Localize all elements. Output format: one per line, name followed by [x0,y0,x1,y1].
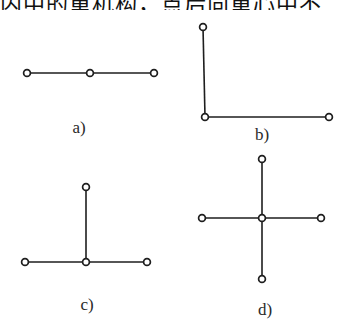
figure-c-t-shaped-graph: c) [22,184,151,314]
figure-label: b) [255,125,269,144]
edge [203,27,205,117]
node-circle-icon [22,259,29,266]
node-circle-icon [326,114,333,121]
node-circle-icon [83,184,90,191]
graph-figures: a) b) c) d) [0,0,352,336]
node-circle-icon [318,215,325,222]
node-circle-icon [24,70,31,77]
node-circle-icon [199,215,206,222]
node-circle-icon [87,70,94,77]
figure-label: d) [258,300,272,319]
node-circle-icon [200,24,207,31]
node-circle-icon [202,114,209,121]
figure-a-linear-graph: a) [24,70,158,137]
node-circle-icon [259,276,266,283]
figure-label: a) [72,118,85,137]
figure-b-l-shaped-graph: b) [200,24,333,144]
figure-label: c) [80,295,93,314]
node-circle-icon [259,215,266,222]
node-circle-icon [151,70,158,77]
node-circle-icon [259,156,266,163]
node-circle-icon [144,259,151,266]
node-circle-icon [83,259,90,266]
figure-d-cross-graph: d) [199,156,325,319]
